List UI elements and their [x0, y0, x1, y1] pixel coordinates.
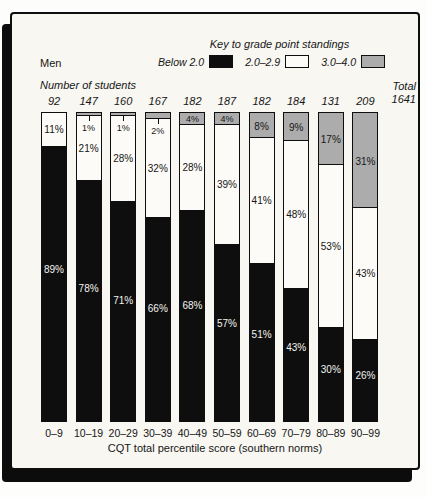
- label-below-2-0: 30%: [319, 364, 343, 376]
- segment-below-2-0: [42, 147, 66, 421]
- segment-below-2-0: [180, 211, 204, 421]
- label-below-2-0: 89%: [42, 264, 66, 276]
- figure-canvas: Key to grade point standings Men Below 2…: [0, 0, 427, 497]
- bar-50-59: 4%39%57%: [214, 112, 240, 422]
- segment-below-2-0: [146, 218, 170, 421]
- label-2-0-2-9: 21%: [77, 143, 101, 155]
- sliver-tick-mark: [89, 116, 90, 121]
- legend-swatch-3-0-4-0: [361, 55, 385, 68]
- label-2-0-2-9: 28%: [111, 153, 135, 165]
- label-3-0-4-0: 9%: [284, 122, 308, 134]
- bar-90-99: 31%43%26%: [352, 112, 378, 422]
- label-3-0-4-0: 1%: [77, 123, 101, 133]
- label-below-2-0: 68%: [180, 300, 204, 312]
- bar-70-79: 9%48%43%: [283, 112, 309, 422]
- label-below-2-0: 26%: [353, 370, 377, 382]
- counts-title: Number of students: [40, 79, 136, 91]
- legend: Below 2.0 2.0–2.9 3.0–4.0: [158, 55, 397, 68]
- group-label: Men: [40, 57, 61, 69]
- legend-label-3-0-4-0: 3.0–4.0: [321, 56, 356, 68]
- segment-below-2-0: [250, 264, 274, 421]
- bar-20-29: 1%28%71%: [110, 112, 136, 422]
- total-value: 1641: [392, 93, 416, 106]
- label-2-0-2-9: 43%: [353, 268, 377, 280]
- label-below-2-0: 51%: [250, 329, 274, 341]
- segment-below-2-0: [215, 245, 239, 421]
- label-below-2-0: 66%: [146, 303, 170, 315]
- segment-below-2-0: [284, 289, 308, 421]
- legend-swatch-2-0-2-9: [285, 55, 309, 68]
- student-count-90-99: 209: [343, 95, 387, 107]
- chart-frame: Key to grade point standings Men Below 2…: [10, 12, 420, 470]
- bar-60-69: 8%41%51%: [249, 112, 275, 422]
- label-2-0-2-9: 39%: [215, 179, 239, 191]
- label-2-0-2-9: 41%: [250, 195, 274, 207]
- bar-0-9: 11%89%: [41, 112, 67, 422]
- x-axis-title: CQT total percentile score (southern nor…: [12, 442, 418, 454]
- sliver-tick-mark: [158, 119, 159, 124]
- label-2-0-2-9: 53%: [319, 241, 343, 253]
- sliver-tick-mark: [123, 116, 124, 121]
- legend-label-below-2-0: Below 2.0: [158, 56, 204, 68]
- total-label: Total: [392, 80, 416, 93]
- label-2-0-2-9: 32%: [146, 163, 170, 175]
- label-3-0-4-0: 4%: [180, 114, 204, 124]
- label-below-2-0: 57%: [215, 318, 239, 330]
- label-2-0-2-9: 48%: [284, 209, 308, 221]
- x-tick-90-99: 90–99: [342, 427, 388, 439]
- label-below-2-0: 43%: [284, 342, 308, 354]
- label-3-0-4-0: 2%: [146, 126, 170, 136]
- bar-40-49: 4%28%68%: [179, 112, 205, 422]
- label-2-0-2-9: 11%: [42, 124, 66, 136]
- bar-10-19: 1%21%78%: [76, 112, 102, 422]
- label-2-0-2-9: 28%: [180, 162, 204, 174]
- label-3-0-4-0: 8%: [250, 121, 274, 133]
- bar-30-39: 2%32%66%: [145, 112, 171, 422]
- label-3-0-4-0: 1%: [111, 123, 135, 133]
- legend-swatch-below-2-0: [209, 55, 233, 68]
- segment-below-2-0: [111, 202, 135, 421]
- legend-title: Key to grade point standings: [197, 38, 362, 50]
- label-below-2-0: 71%: [111, 295, 135, 307]
- label-3-0-4-0: 17%: [319, 134, 343, 146]
- bar-80-89: 17%53%30%: [318, 112, 344, 422]
- label-3-0-4-0: 4%: [215, 114, 239, 124]
- segment-below-2-0: [77, 181, 101, 421]
- total-block: Total 1641: [392, 80, 416, 106]
- label-below-2-0: 78%: [77, 283, 101, 295]
- legend-label-2-0-2-9: 2.0–2.9: [245, 56, 280, 68]
- label-3-0-4-0: 31%: [353, 156, 377, 168]
